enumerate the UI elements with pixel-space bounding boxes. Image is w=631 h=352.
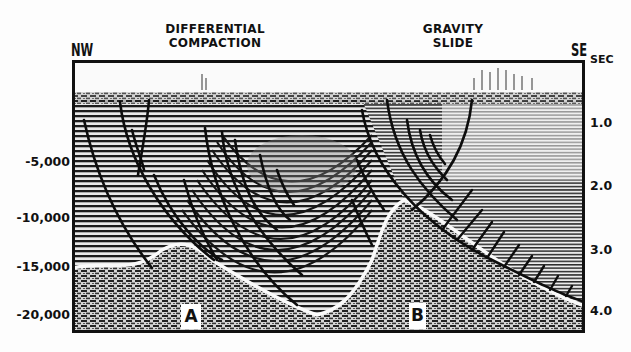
compass-se-label: SE <box>571 40 587 60</box>
seismic-section <box>72 60 585 333</box>
title-right-line2: SLIDE <box>418 36 488 50</box>
time-unit-label: SEC <box>590 53 614 66</box>
point-a-label: A <box>181 304 201 329</box>
title-left-line1: DIFFERENTIAL <box>160 22 270 36</box>
depth-tick-5000: -5,000 <box>2 154 70 169</box>
title-left-line2: COMPACTION <box>160 36 270 50</box>
title-gravity-slide: GRAVITY SLIDE <box>418 22 488 50</box>
time-tick-2: 2.0 <box>590 178 612 193</box>
point-b-label: B <box>409 303 426 329</box>
depth-tick-10000: -10,000 <box>2 210 70 225</box>
depth-tick-15000: -15,000 <box>2 259 70 274</box>
compass-nw-label: NW <box>71 40 93 60</box>
title-differential-compaction: DIFFERENTIAL COMPACTION <box>160 22 270 50</box>
time-tick-1: 1.0 <box>590 115 612 130</box>
title-right-line1: GRAVITY <box>418 22 488 36</box>
time-tick-4: 4.0 <box>590 303 612 318</box>
time-tick-3: 3.0 <box>590 242 612 257</box>
depth-tick-20000: -20,000 <box>2 307 70 322</box>
